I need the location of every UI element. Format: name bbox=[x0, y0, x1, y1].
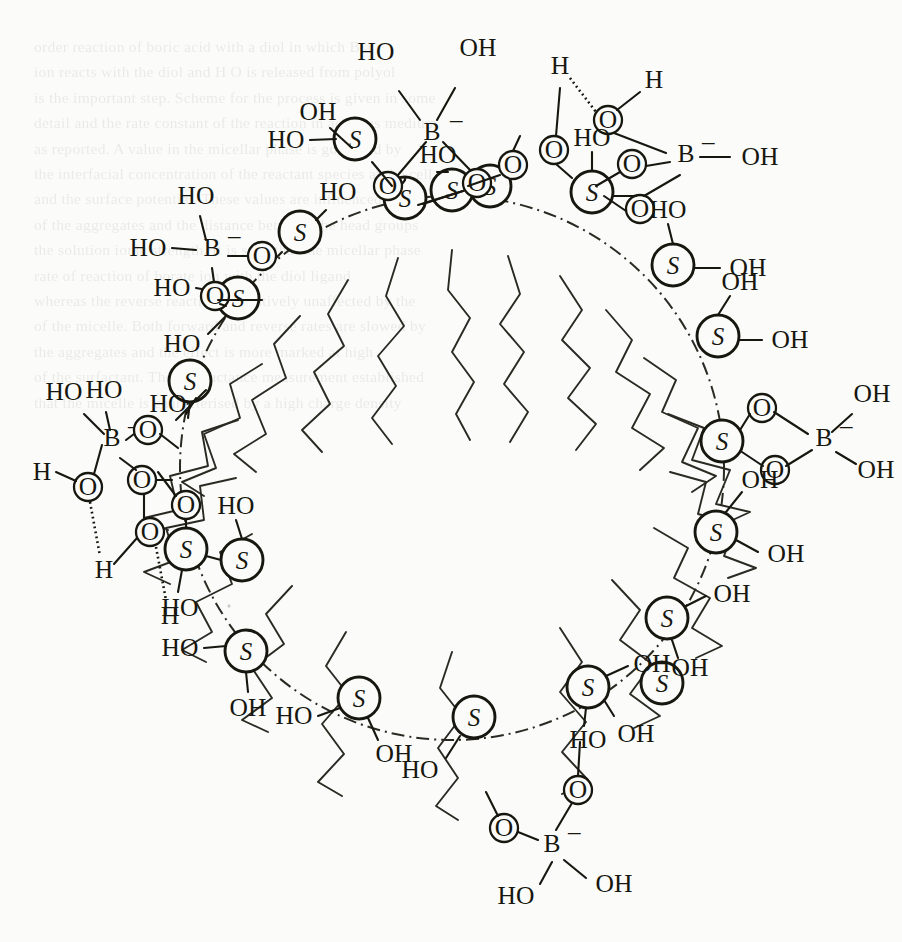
label-HO: HO bbox=[130, 233, 167, 262]
headgroup-19-substituents: HO bbox=[268, 125, 336, 154]
atom-label-O: O bbox=[141, 517, 159, 546]
label-HO: HO bbox=[150, 389, 187, 418]
boron-charge: – bbox=[449, 106, 463, 133]
atom-label-B: B bbox=[677, 139, 694, 168]
label-OH: OH bbox=[596, 869, 633, 898]
atom-label-O: O bbox=[504, 150, 522, 179]
label-HO: HO bbox=[498, 881, 535, 910]
atom-label-B: B bbox=[815, 423, 832, 452]
boron-charge: – bbox=[567, 818, 581, 845]
label-HO: HO bbox=[162, 633, 199, 662]
label-OH: OH bbox=[672, 653, 709, 682]
headgroup-s-19 bbox=[334, 118, 376, 160]
label-OH: OH bbox=[772, 325, 809, 354]
atom-label-H: H bbox=[33, 457, 51, 486]
atom-label-O: O bbox=[139, 415, 157, 444]
atom-label-B: B bbox=[103, 423, 120, 452]
atom-label-O: O bbox=[206, 281, 224, 310]
label-HO: HO bbox=[570, 725, 607, 754]
label-HO: HO bbox=[650, 195, 687, 224]
label-HO: HO bbox=[164, 329, 201, 358]
label-OH: OH bbox=[460, 33, 497, 62]
headgroup-s-18 bbox=[279, 211, 321, 253]
headgroup-s-15 bbox=[165, 528, 207, 570]
label-HO: HO bbox=[268, 125, 305, 154]
atom-label-H: H bbox=[645, 65, 663, 94]
label-OH: OH bbox=[230, 693, 267, 722]
label-HO: HO bbox=[86, 375, 123, 404]
atom-label-B: B bbox=[543, 829, 560, 858]
micelle-diagram: .bond{stroke:#17170f;stroke-width:2.1;fi… bbox=[0, 0, 902, 942]
headgroup-8-substituents: OH OH bbox=[726, 465, 804, 568]
atom-label-H: H bbox=[551, 51, 569, 80]
label-HO: HO bbox=[358, 37, 395, 66]
label-OH: OH bbox=[618, 719, 655, 748]
atom-label-O: O bbox=[753, 393, 771, 422]
label-HO: HO bbox=[320, 177, 357, 206]
label-OH: OH bbox=[742, 142, 779, 171]
headgroup-s-6 bbox=[697, 315, 739, 357]
headgroup-s-14 bbox=[221, 539, 263, 581]
headgroup-s-11 bbox=[453, 696, 495, 738]
atom-label-O: O bbox=[379, 171, 397, 200]
atom-label-O: O bbox=[79, 472, 97, 501]
headgroup-s-9 bbox=[646, 597, 688, 639]
label-OH: OH bbox=[714, 579, 751, 608]
atom-label-H: H bbox=[161, 601, 179, 630]
label-OH: OH bbox=[858, 455, 895, 484]
atom-label-O: O bbox=[177, 490, 195, 519]
headgroup-s-8 bbox=[695, 511, 737, 553]
label-HO: HO bbox=[46, 377, 83, 406]
label-OH: OH bbox=[722, 267, 759, 296]
headgroup-s-4 bbox=[571, 171, 613, 213]
headgroup-s-13 bbox=[225, 630, 267, 672]
label-OH: OH bbox=[742, 465, 779, 494]
atom-label-H: H bbox=[95, 555, 113, 584]
atom-label-O: O bbox=[623, 149, 641, 178]
headgroup-18-substituents: HO bbox=[316, 177, 356, 220]
boron-charge: – bbox=[701, 128, 715, 155]
headgroup-s-5 bbox=[652, 244, 694, 286]
label-HO: HO bbox=[178, 181, 215, 210]
headgroup-s-7 bbox=[701, 420, 743, 462]
atom-label-O: O bbox=[253, 241, 271, 270]
label-HO: HO bbox=[154, 273, 191, 302]
atom-label-O: O bbox=[545, 135, 563, 164]
headgroup-s-10 bbox=[567, 666, 609, 708]
label-OH: OH bbox=[854, 379, 891, 408]
atom-label-O: O bbox=[495, 813, 513, 842]
boron-charge: – bbox=[227, 222, 241, 249]
label-HO: HO bbox=[276, 701, 313, 730]
figure-page: order reaction of boric acid with a diol… bbox=[0, 0, 902, 942]
label-OH: OH bbox=[300, 97, 337, 126]
label-OH: OH bbox=[768, 539, 805, 568]
headgroup-s-12 bbox=[338, 677, 380, 719]
borate-complex-bottom: O O B – HO OH HO bbox=[402, 736, 633, 910]
atom-label-O: O bbox=[631, 194, 649, 223]
label-HO: HO bbox=[218, 491, 255, 520]
atom-label-O: O bbox=[569, 775, 587, 804]
hydrocarbon-tails bbox=[144, 250, 756, 820]
label-HO: HO bbox=[420, 140, 457, 169]
label-OH: OH bbox=[634, 649, 671, 678]
label-OH: OH bbox=[376, 739, 413, 768]
label-HO: HO bbox=[574, 123, 611, 152]
